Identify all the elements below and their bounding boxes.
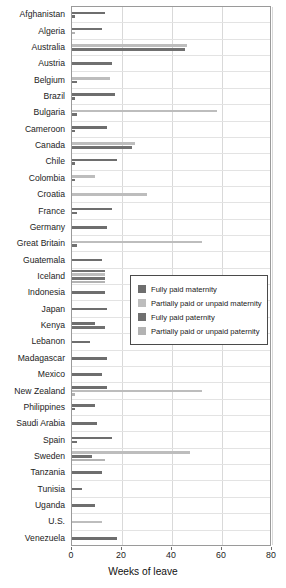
y-axis-label: Brazil: [44, 92, 66, 101]
bar-row: [72, 56, 270, 72]
bar: [72, 110, 217, 113]
y-axis-label: Japan: [42, 304, 65, 313]
bar: [72, 326, 105, 329]
y-axis-label: Great Britain: [17, 239, 65, 248]
bar: [72, 93, 115, 96]
bar-row: [72, 416, 270, 432]
x-tick-label: 20: [116, 550, 126, 560]
y-axis-label: Sweden: [34, 452, 65, 461]
bar: [72, 159, 117, 162]
bar-row: [72, 531, 270, 547]
bar: [72, 521, 102, 524]
bar: [72, 455, 92, 458]
chart-legend: Fully paid maternityPartially paid or un…: [130, 275, 268, 345]
bar: [72, 28, 102, 31]
bar: [72, 48, 185, 51]
y-axis-label: Uganda: [35, 501, 65, 510]
bar-row: [72, 498, 270, 514]
bar: [72, 244, 77, 247]
legend-label: Fully paid maternity: [151, 285, 217, 294]
bar: [72, 81, 77, 84]
bar-group: [72, 138, 270, 153]
bar-row: [72, 23, 270, 39]
bar-row: [72, 351, 270, 367]
bar-row: [72, 187, 270, 203]
legend-item: Fully paid paternity: [138, 310, 261, 324]
bar: [72, 441, 77, 444]
bar-group: [72, 7, 270, 22]
bar: [72, 212, 77, 215]
y-axis-label: Chile: [45, 157, 65, 166]
y-axis-label: Cameroon: [25, 124, 65, 133]
bar-row: [72, 449, 270, 465]
bar-row: [72, 465, 270, 481]
bar-row: [72, 105, 270, 121]
bar: [72, 32, 75, 35]
bar-group: [72, 105, 270, 120]
bar-row: [72, 514, 270, 530]
y-axis-label: Saudi Arabia: [16, 419, 65, 428]
bar-row: [72, 89, 270, 105]
bar-row: [72, 7, 270, 23]
bar-group: [72, 367, 270, 382]
y-axis-label: Kenya: [41, 321, 65, 330]
y-axis-label: Guatemala: [23, 255, 65, 264]
x-tick-label: 60: [216, 550, 226, 560]
bar: [72, 386, 107, 389]
legend-item: Partially paid or unpaid paternity: [138, 324, 261, 338]
bar-group: [72, 416, 270, 431]
bar: [72, 273, 105, 276]
bar-group: [72, 23, 270, 38]
bar-row: [72, 154, 270, 170]
bar: [72, 259, 102, 262]
bar: [72, 471, 102, 474]
bar: [72, 126, 107, 129]
bar-row: [72, 72, 270, 88]
bar: [72, 179, 75, 182]
bar: [72, 281, 105, 284]
legend-item: Fully paid maternity: [138, 282, 261, 296]
y-axis-labels: AfghanistanAlgeriaAustraliaAustriaBelgiu…: [0, 6, 68, 546]
y-axis-label: Iceland: [37, 272, 65, 281]
bar-row: [72, 122, 270, 138]
bar: [72, 44, 187, 47]
bar: [72, 408, 75, 411]
bar: [72, 393, 75, 396]
bar: [72, 308, 107, 311]
bar-row: [72, 40, 270, 56]
bar-group: [72, 383, 270, 398]
bar-group: [72, 56, 270, 71]
legend-label: Partially paid or unpaid paternity: [151, 327, 260, 336]
bar: [72, 162, 75, 165]
bar-group: [72, 203, 270, 218]
bar-group: [72, 252, 270, 267]
bar: [72, 451, 190, 454]
bar-group: [72, 400, 270, 415]
bar: [72, 241, 202, 244]
y-axis-label: Indonesia: [28, 288, 65, 297]
x-tick-label: 80: [266, 550, 276, 560]
bar-group: [72, 72, 270, 87]
bar: [72, 142, 135, 145]
y-axis-label: Canada: [35, 141, 65, 150]
bar: [72, 12, 105, 15]
y-axis-label: Belgium: [34, 75, 65, 84]
bar-row: [72, 220, 270, 236]
bar: [72, 504, 95, 507]
bar-group: [72, 220, 270, 235]
bar: [72, 270, 105, 273]
bar-group: [72, 432, 270, 447]
x-axis-title: Weeks of leave: [0, 566, 286, 577]
bar-row: [72, 252, 270, 268]
bar-group: [72, 531, 270, 547]
bar-group: [72, 40, 270, 55]
y-axis-label: Tunisia: [38, 484, 65, 493]
bar-group: [72, 89, 270, 104]
bar: [72, 357, 107, 360]
bar: [72, 390, 202, 393]
y-axis-label: Mexico: [38, 370, 65, 379]
bar-group: [72, 514, 270, 529]
y-axis-label: Austria: [38, 59, 65, 68]
bar: [72, 15, 75, 18]
bar: [72, 537, 117, 540]
